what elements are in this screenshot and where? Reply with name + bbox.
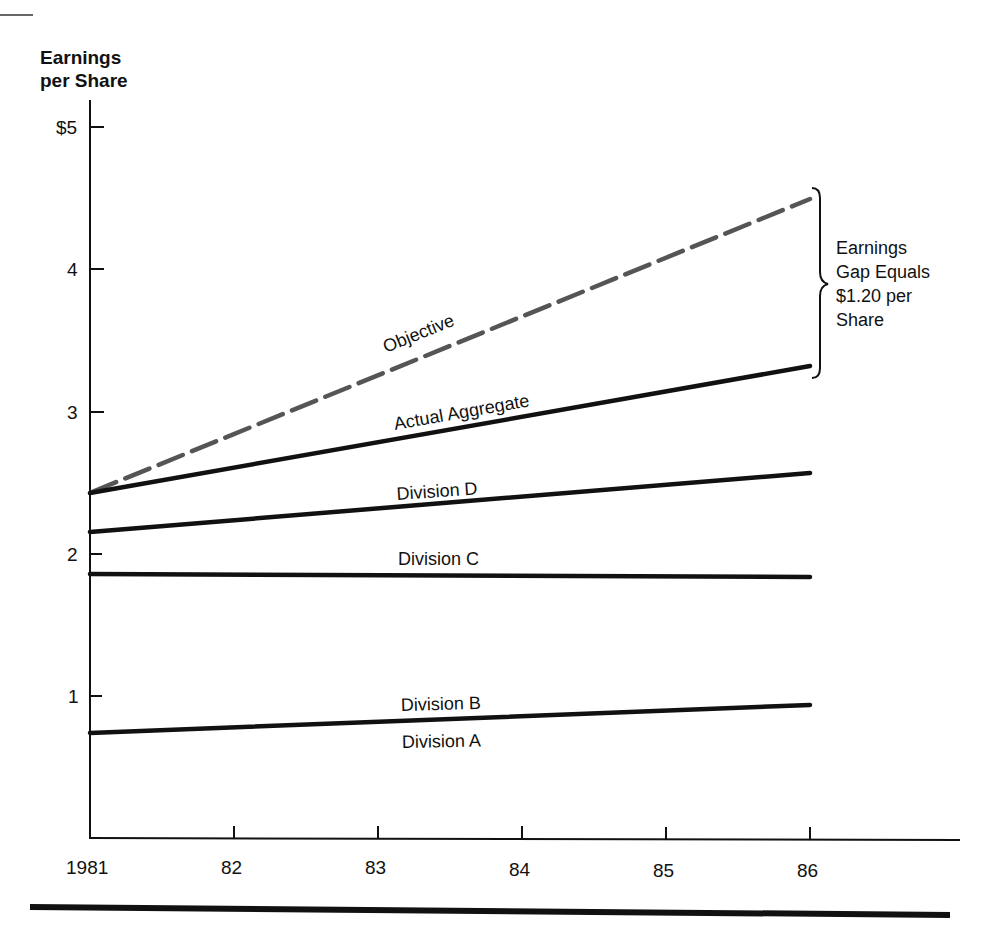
x-tick-82: 82 (221, 857, 242, 878)
gap-brace (812, 188, 828, 378)
x-tick-85: 85 (653, 860, 674, 881)
series-objective (92, 199, 810, 492)
label-division-b: Division B (401, 693, 482, 715)
note-line2: Gap Equals (836, 260, 930, 284)
note-line3: $1.20 per (836, 284, 930, 308)
series-actual-aggregate (90, 366, 810, 493)
y-axis-title-line1: Earnings (40, 46, 128, 69)
label-division-c: Division C (398, 549, 479, 569)
bottom-rule (30, 907, 950, 915)
note-line4: Share (836, 308, 930, 332)
y-ticks (90, 127, 104, 696)
x-axis (89, 838, 960, 840)
y-tick-3: 3 (67, 402, 78, 423)
x-tick-1981: 1981 (66, 857, 108, 878)
y-axis-title-line2: per Share (40, 69, 128, 92)
x-tick-83: 83 (365, 857, 386, 878)
earnings-chart: $5 4 3 2 1 1981 82 83 84 85 86 Objective… (0, 0, 993, 936)
x-tick-labels: 1981 82 83 84 85 86 (66, 857, 818, 881)
y-tick-5: $5 (56, 117, 77, 138)
y-axis-title: Earnings per Share (40, 46, 128, 92)
x-tick-84: 84 (509, 859, 531, 880)
note-line1: Earnings (836, 236, 930, 260)
label-division-a: Division A (402, 731, 481, 752)
x-tick-86: 86 (797, 860, 818, 881)
y-tick-1: 1 (68, 686, 79, 707)
series-division-c (90, 574, 810, 577)
y-tick-2: 2 (67, 544, 78, 565)
y-tick-4: 4 (67, 259, 78, 280)
earnings-gap-annotation: Earnings Gap Equals $1.20 per Share (836, 236, 930, 332)
y-tick-labels: $5 4 3 2 1 (56, 117, 79, 707)
